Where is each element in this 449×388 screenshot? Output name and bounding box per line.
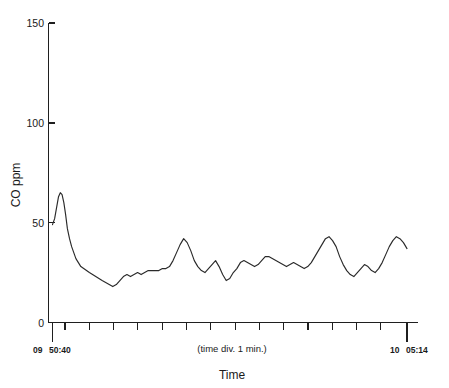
x-start-hour: 09 bbox=[33, 345, 43, 355]
y-axis-title: CO ppm bbox=[9, 163, 23, 208]
y-tick-label-50: 50 bbox=[32, 217, 44, 229]
x-end-minsec: 05:14 bbox=[406, 345, 428, 355]
co-ppm-series-line bbox=[53, 193, 408, 287]
x-end-hour: 10 bbox=[390, 345, 400, 355]
y-tick-label-0: 0 bbox=[38, 317, 44, 329]
x-axis-title: Time bbox=[219, 368, 246, 382]
x-start-time-label: 09 50:40 bbox=[33, 345, 71, 355]
y-axis-ticks bbox=[49, 23, 56, 323]
co-ppm-line-chart: 150 100 50 0 CO ppm 09 50 bbox=[0, 0, 449, 388]
time-division-note: (time div. 1 min.) bbox=[197, 343, 267, 354]
x-end-time-label: 10 05:14 bbox=[390, 345, 428, 355]
x-axis-ticks bbox=[65, 323, 381, 331]
chart-figure: 150 100 50 0 CO ppm 09 50 bbox=[0, 0, 449, 388]
x-start-minsec: 50:40 bbox=[49, 345, 71, 355]
y-tick-label-150: 150 bbox=[26, 17, 44, 29]
y-tick-label-100: 100 bbox=[26, 117, 44, 129]
